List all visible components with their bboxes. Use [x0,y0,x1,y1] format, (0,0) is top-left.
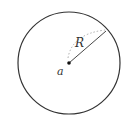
radius-label: R [74,36,84,50]
circle-diagram: R a [0,0,133,118]
radius-arc-dotted [68,30,105,58]
center-label: a [57,65,64,78]
center-point [67,61,71,65]
